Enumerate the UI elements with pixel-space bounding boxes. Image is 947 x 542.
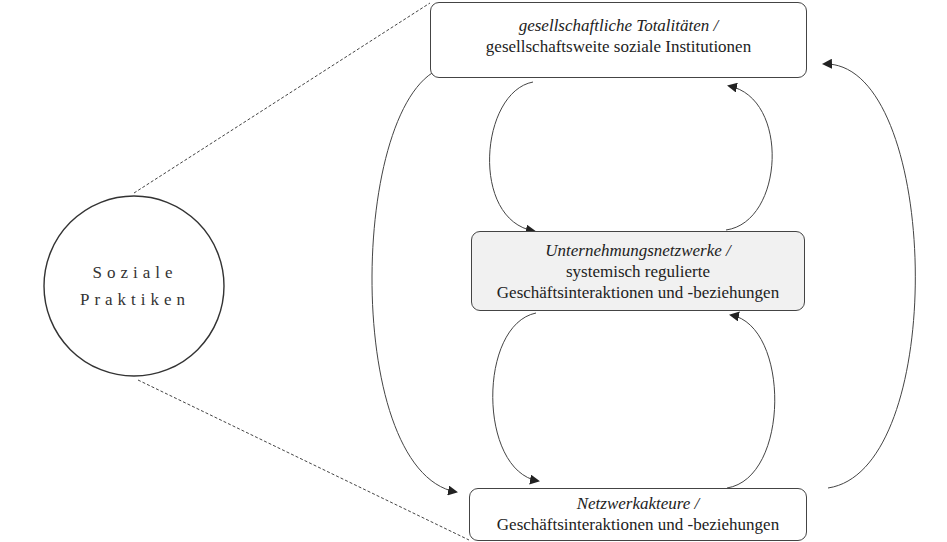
circle-label-line2: Praktiken (44, 286, 226, 313)
box-enterprise-networks: Unternehmungsnetzwerke / systemisch regu… (471, 231, 805, 311)
arrow-middle-to-top (726, 86, 772, 230)
box-middle-subtitle-line1: systemisch regulierte (472, 261, 804, 282)
arrow-top-to-bottom (372, 66, 456, 492)
box-middle-title: Unternehmungsnetzwerke / (472, 240, 804, 261)
box-top-subtitle: gesellschaftsweite soziale Institutionen (431, 36, 806, 57)
box-top-title: gesellschaftliche Totalitäten / (431, 15, 806, 36)
box-network-actors: Netzwerkakteure / Geschäftsinteraktionen… (469, 488, 807, 541)
box-societal-totalities: gesellschaftliche Totalitäten / gesellsc… (430, 2, 807, 78)
dashed-link-top (134, 3, 430, 193)
circle-label-line1: Soziale (44, 259, 226, 286)
box-bottom-title: Netzwerkakteure / (470, 493, 806, 514)
box-bottom-subtitle: Geschäftsinteraktionen und -beziehungen (470, 514, 806, 535)
arrow-bottom-to-middle (727, 315, 775, 488)
arrow-middle-to-bottom (493, 313, 538, 481)
arrow-top-to-middle (490, 82, 534, 231)
social-practices-label: Soziale Praktiken (44, 259, 226, 313)
box-middle-subtitle-line2: Geschäftsinteraktionen und -beziehungen (472, 282, 804, 303)
arrow-bottom-to-top (824, 64, 915, 488)
dashed-link-bottom (138, 380, 469, 540)
